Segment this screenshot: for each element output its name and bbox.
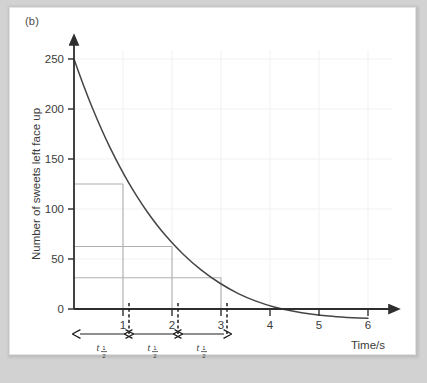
construction-lines (74, 184, 221, 309)
gridlines-horizontal (74, 59, 392, 259)
y-axis-title: Number of sweets left face up (30, 108, 42, 260)
x-axis-ticks (123, 309, 368, 316)
x-tick-label-1: 1 (120, 319, 126, 331)
x-tick-label-4: 4 (267, 319, 274, 331)
half-life-numerator-2: 1 (153, 345, 157, 351)
half-life-denominator-1: 2 (102, 353, 106, 359)
y-tick-label-50: 50 (51, 253, 64, 265)
half-life-dashed-lines (129, 303, 227, 334)
figure-root: (b) (0, 0, 427, 383)
half-life-denominator-2: 2 (153, 353, 157, 359)
x-axis-title: Time/s (351, 339, 385, 351)
half-life-numerator-3: 1 (202, 345, 206, 351)
half-life-label-3: t 1 2 (197, 342, 207, 359)
half-life-numerator-1: 1 (102, 345, 106, 351)
x-tick-label-2: 2 (169, 319, 175, 331)
half-life-symbol-t-1: t (97, 342, 100, 353)
gridlines-vertical (123, 50, 368, 309)
x-axis-tick-labels: 1 2 3 4 5 6 (120, 319, 371, 331)
half-life-symbol-t-3: t (197, 342, 200, 353)
half-life-label-1: t 1 2 (97, 342, 107, 359)
half-life-symbol-t-2: t (148, 342, 151, 353)
chart-svg: 250 200 150 100 50 0 1 2 3 4 5 6 (0, 0, 427, 383)
y-axis-tick-labels: 250 200 150 100 50 0 (45, 53, 64, 315)
half-life-label-2: t 1 2 (148, 342, 158, 359)
y-tick-label-0: 0 (58, 303, 64, 315)
x-tick-label-5: 5 (316, 319, 322, 331)
y-tick-label-100: 100 (45, 203, 64, 215)
half-life-denominator-3: 2 (202, 353, 206, 359)
y-tick-label-250: 250 (45, 53, 64, 65)
x-tick-label-6: 6 (365, 319, 371, 331)
y-tick-label-150: 150 (45, 153, 64, 165)
x-tick-label-3: 3 (218, 319, 224, 331)
y-tick-label-200: 200 (45, 103, 64, 115)
